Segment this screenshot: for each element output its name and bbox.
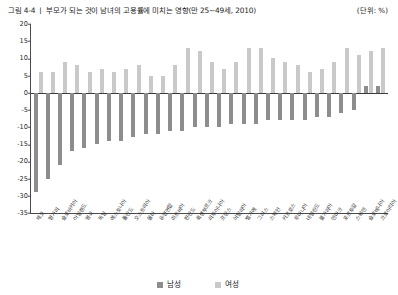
bar-male[interactable] bbox=[46, 93, 50, 179]
plot-area: 20151050-5-10-15-20-25-30-35 체코헝가리슬로바키아아… bbox=[4, 18, 390, 280]
bar-female[interactable] bbox=[75, 65, 79, 92]
bar-female[interactable] bbox=[124, 69, 128, 93]
bar-male[interactable] bbox=[315, 93, 319, 117]
y-axis-tick: 10 bbox=[6, 55, 28, 62]
bar-male[interactable] bbox=[217, 93, 221, 127]
bar-female[interactable] bbox=[149, 76, 153, 93]
legend-item-female[interactable]: 여성 bbox=[215, 281, 239, 289]
bar-female[interactable] bbox=[222, 69, 226, 93]
bar-group[interactable] bbox=[362, 24, 374, 213]
y-axis-tick: 20 bbox=[6, 21, 28, 28]
bar-male[interactable] bbox=[376, 86, 380, 93]
bar-female[interactable] bbox=[345, 48, 349, 93]
bar-male[interactable] bbox=[205, 93, 209, 127]
bar-male[interactable] bbox=[352, 93, 356, 110]
bar-group[interactable] bbox=[179, 24, 191, 213]
bar-female[interactable] bbox=[161, 76, 165, 93]
bar-group[interactable] bbox=[375, 24, 387, 213]
bar-group[interactable] bbox=[289, 24, 301, 213]
bar-group[interactable] bbox=[142, 24, 154, 213]
bar-male[interactable] bbox=[34, 93, 38, 193]
bar-female[interactable] bbox=[39, 72, 43, 93]
bar-group[interactable] bbox=[56, 24, 68, 213]
bar-female[interactable] bbox=[369, 51, 373, 92]
bar-female[interactable] bbox=[51, 72, 55, 93]
bar-male[interactable] bbox=[168, 93, 172, 131]
bar-group[interactable] bbox=[130, 24, 142, 213]
bar-male[interactable] bbox=[119, 93, 123, 141]
bar-female[interactable] bbox=[112, 72, 116, 93]
bar-group[interactable] bbox=[240, 24, 252, 213]
bar-group[interactable] bbox=[191, 24, 203, 213]
bar-female[interactable] bbox=[137, 65, 141, 92]
bar-group[interactable] bbox=[228, 24, 240, 213]
bar-female[interactable] bbox=[357, 55, 361, 93]
bar-female[interactable] bbox=[100, 69, 104, 93]
x-axis-tick: 핀란드 bbox=[178, 214, 190, 280]
bar-male[interactable] bbox=[82, 93, 86, 148]
bar-male[interactable] bbox=[339, 93, 343, 114]
bar-group[interactable] bbox=[118, 24, 130, 213]
legend-label-female: 여성 bbox=[225, 281, 239, 289]
bar-male[interactable] bbox=[327, 93, 331, 117]
figure-caption: 그림 4-4 ㅣ 부모가 되는 것이 남녀의 고용률에 미치는 영향(만 25~… bbox=[8, 6, 256, 16]
bar-male[interactable] bbox=[156, 93, 160, 134]
bar-female[interactable] bbox=[381, 48, 385, 93]
bar-female[interactable] bbox=[173, 65, 177, 92]
bar-male[interactable] bbox=[144, 93, 148, 134]
bar-group[interactable] bbox=[93, 24, 105, 213]
bar-group[interactable] bbox=[69, 24, 81, 213]
bar-male[interactable] bbox=[242, 93, 246, 124]
bar-male[interactable] bbox=[95, 93, 99, 145]
bar-male[interactable] bbox=[107, 93, 111, 141]
bar-group[interactable] bbox=[338, 24, 350, 213]
bar-group[interactable] bbox=[264, 24, 276, 213]
bar-group[interactable] bbox=[216, 24, 228, 213]
bar-female[interactable] bbox=[234, 62, 238, 93]
legend-swatch-female-icon bbox=[215, 282, 221, 288]
bar-female[interactable] bbox=[332, 62, 336, 93]
bar-female[interactable] bbox=[271, 58, 275, 92]
bar-female[interactable] bbox=[320, 69, 324, 93]
x-axis-tick: 에스토니아 bbox=[105, 214, 117, 280]
x-axis-tick: 유럽연합 bbox=[154, 214, 166, 280]
bar-female[interactable] bbox=[283, 62, 287, 93]
bar-group[interactable] bbox=[32, 24, 44, 213]
bar-group[interactable] bbox=[277, 24, 289, 213]
bar-male[interactable] bbox=[229, 93, 233, 124]
legend-item-male[interactable]: 남성 bbox=[157, 281, 181, 289]
bar-group[interactable] bbox=[203, 24, 215, 213]
bar-male[interactable] bbox=[266, 93, 270, 120]
bar-male[interactable] bbox=[254, 93, 258, 124]
bar-group[interactable] bbox=[81, 24, 93, 213]
bar-female[interactable] bbox=[259, 48, 263, 93]
bar-male[interactable] bbox=[58, 93, 62, 165]
bar-group[interactable] bbox=[301, 24, 313, 213]
bar-female[interactable] bbox=[63, 62, 67, 93]
bar-male[interactable] bbox=[364, 86, 368, 93]
bar-female[interactable] bbox=[198, 51, 202, 92]
bar-group[interactable] bbox=[326, 24, 338, 213]
bar-male[interactable] bbox=[303, 93, 307, 120]
bar-male[interactable] bbox=[290, 93, 294, 120]
bar-group[interactable] bbox=[154, 24, 166, 213]
bar-female[interactable] bbox=[210, 62, 214, 93]
bar-male[interactable] bbox=[193, 93, 197, 127]
bar-group[interactable] bbox=[350, 24, 362, 213]
bar-female[interactable] bbox=[88, 72, 92, 93]
x-axis-tick: 폴란드 bbox=[117, 214, 129, 280]
bar-male[interactable] bbox=[131, 93, 135, 138]
bar-female[interactable] bbox=[296, 65, 300, 92]
bar-group[interactable] bbox=[252, 24, 264, 213]
bar-group[interactable] bbox=[167, 24, 179, 213]
bar-male[interactable] bbox=[278, 93, 282, 120]
bar-female[interactable] bbox=[186, 48, 190, 93]
bar-group[interactable] bbox=[313, 24, 325, 213]
bar-male[interactable] bbox=[70, 93, 74, 151]
bar-group[interactable] bbox=[105, 24, 117, 213]
bar-female[interactable] bbox=[308, 72, 312, 93]
bar-female[interactable] bbox=[247, 48, 251, 93]
bar-group[interactable] bbox=[44, 24, 56, 213]
bar-male[interactable] bbox=[180, 93, 184, 131]
